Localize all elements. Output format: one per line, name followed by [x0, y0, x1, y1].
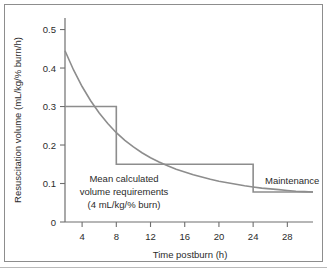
x-axis-tick-label: 16	[179, 231, 190, 242]
y-axis-tick-label: 0	[51, 217, 56, 228]
x-axis-tick-marks	[82, 222, 287, 227]
x-axis-tick-label: 12	[145, 231, 156, 242]
x-axis-title: Time postburn (h)	[153, 249, 228, 260]
annotation-mean-line-3: (4 mL/kg/% burn)	[88, 199, 161, 210]
x-axis-tick-label: 4	[79, 231, 84, 242]
chart-figure: 00.10.20.30.40.5 481216202428 Resuscitat…	[0, 0, 327, 273]
x-axis-tick-labels: 481216202428	[79, 231, 292, 242]
x-axis-tick-label: 8	[114, 231, 119, 242]
annotation-mean-calculated-volume: Mean calculated volume requirements (4 m…	[80, 173, 169, 210]
y-axis-tick-marks	[60, 30, 65, 222]
y-axis-tick-label: 0.2	[43, 140, 56, 151]
y-axis-tick-label: 0.4	[43, 63, 56, 74]
y-axis-tick-label: 0.3	[43, 101, 56, 112]
x-axis-tick-label: 28	[282, 231, 293, 242]
series-decay-curve	[65, 51, 313, 192]
y-axis-title: Resuscitation volume (mL/kg/% burn/h)	[12, 37, 23, 203]
annotation-maintenance: Maintenance	[265, 175, 319, 186]
y-axis-tick-label: 0.5	[43, 24, 56, 35]
x-axis-tick-label: 20	[214, 231, 225, 242]
y-axis-tick-labels: 00.10.20.30.40.5	[43, 24, 56, 227]
x-axis-tick-label: 24	[248, 231, 259, 242]
annotation-mean-line-1: Mean calculated	[89, 173, 158, 184]
annotation-mean-line-2: volume requirements	[80, 186, 169, 197]
chart-plot-area: 00.10.20.30.40.5 481216202428 Resuscitat…	[0, 0, 327, 273]
y-axis-tick-label: 0.1	[43, 178, 56, 189]
